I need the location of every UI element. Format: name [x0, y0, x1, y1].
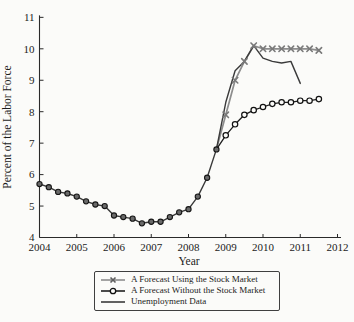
series-markers-unemployment-data: [37, 147, 219, 226]
filled-circle-marker: [56, 189, 61, 194]
open-circle-marker: [270, 101, 275, 106]
x-marker-legend-sample-icon: [100, 275, 126, 285]
x-tick-label: 2009: [215, 241, 238, 253]
y-tick-label: 6: [29, 168, 35, 180]
y-tick-label: 5: [29, 200, 35, 212]
filled-circle-marker: [149, 219, 154, 224]
open-circle-marker: [232, 122, 237, 127]
y-tick-label: 11: [24, 11, 35, 23]
legend: A Forecast Using the Stock Market A Fore…: [94, 271, 280, 311]
open-circle-marker: [298, 98, 303, 103]
x-tick-label: 2012: [327, 241, 349, 253]
plain-line-legend-sample-icon: [100, 297, 126, 307]
series-line-a-forecast-using-the-stock-market: [216, 46, 319, 150]
x-tick-label: 2011: [289, 241, 311, 253]
x-tick-label: 2007: [140, 241, 163, 253]
filled-circle-marker: [65, 191, 70, 196]
open-circle-marker: [223, 133, 228, 138]
x-tick-label: 2006: [103, 241, 126, 253]
open-circle-marker: [316, 96, 321, 101]
legend-item-forecast-using-stock-market: A Forecast Using the Stock Market: [100, 274, 275, 285]
filled-circle-marker: [46, 185, 51, 190]
filled-circle-marker: [83, 199, 88, 204]
open-circle-marker: [288, 100, 293, 105]
filled-circle-marker: [158, 219, 163, 224]
legend-label: Unemployment Data: [131, 296, 206, 307]
series-markers-a-forecast-without-the-stock-market: [223, 96, 322, 138]
filled-circle-marker: [111, 213, 116, 218]
y-tick-label: 9: [29, 74, 35, 86]
filled-circle-marker: [37, 181, 42, 186]
x-tick-label: 2010: [252, 241, 275, 253]
y-axis: [40, 17, 44, 237]
x-axis-labels: 200420052006200720082009201020112012: [29, 241, 349, 253]
filled-circle-marker: [205, 175, 210, 180]
filled-circle-marker: [121, 214, 126, 219]
x-tick-label: 2004: [29, 241, 52, 253]
y-tick-label: 10: [24, 43, 36, 55]
x-tick-label: 2005: [66, 241, 89, 253]
legend-label: A Forecast Without the Stock Market: [131, 285, 265, 296]
open-circle-marker: [260, 104, 265, 109]
open-circle-marker: [307, 98, 312, 103]
filled-circle-marker: [139, 221, 144, 226]
filled-circle-marker: [214, 147, 219, 152]
y-axis-title: Percent of the Labor Force: [1, 65, 13, 188]
filled-circle-marker: [93, 202, 98, 207]
filled-circle-marker: [74, 194, 79, 199]
legend-item-unemployment-data: Unemployment Data: [100, 296, 275, 307]
filled-circle-marker: [186, 207, 191, 212]
filled-circle-marker: [177, 210, 182, 215]
filled-circle-marker: [102, 203, 107, 208]
open-circle-marker: [242, 112, 247, 117]
figure-container: 4567891011200420052006200720082009201020…: [0, 0, 354, 322]
x-axis-title: Year: [178, 255, 199, 267]
y-tick-label: 8: [29, 106, 35, 118]
filled-circle-marker: [195, 194, 200, 199]
legend-label: A Forecast Using the Stock Market: [131, 274, 258, 285]
y-axis-labels: 4567891011: [24, 11, 36, 243]
filled-circle-marker: [167, 214, 172, 219]
x-tick-label: 2008: [178, 241, 201, 253]
plot-area: 4567891011200420052006200720082009201020…: [24, 11, 349, 252]
open-circle-marker: [251, 107, 256, 112]
legend-item-forecast-without-stock-market: A Forecast Without the Stock Market: [100, 285, 275, 296]
open-circle-legend-sample-icon: [100, 286, 126, 296]
filled-circle-marker: [130, 216, 135, 221]
legend-open-circle-marker: [110, 288, 115, 293]
open-circle-marker: [279, 100, 284, 105]
y-tick-label: 7: [29, 137, 35, 149]
